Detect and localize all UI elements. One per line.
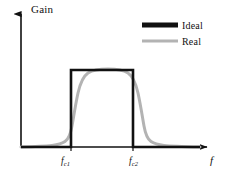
y-axis-title: Gain	[31, 4, 53, 15]
tick-label-fc2-subscript: c2	[132, 160, 138, 167]
tick-label-fc1-subscript: c1	[64, 160, 70, 167]
filter-response-figure: Gain f fc1 fc2 Ideal Real	[0, 0, 226, 177]
tick-label-fc1: fc1	[61, 157, 70, 167]
series-real-curve	[21, 69, 200, 147]
legend-label-real: Real	[182, 37, 201, 47]
legend-label-ideal: Ideal	[182, 21, 203, 31]
tick-label-fc2: fc2	[129, 157, 138, 167]
x-axis-title: f	[210, 155, 213, 166]
series-ideal-curve	[21, 70, 200, 147]
